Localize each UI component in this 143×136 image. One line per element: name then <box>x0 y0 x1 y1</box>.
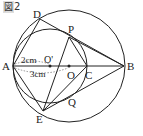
label-o: O <box>67 69 75 81</box>
figure-kanji: 図 <box>3 1 14 13</box>
label-o-prime: O' <box>44 54 53 65</box>
measure-2cm: 2cm <box>21 55 37 65</box>
label-e: E <box>36 113 43 125</box>
segment-ec <box>43 66 87 111</box>
diagram-canvas: A B C D E P Q O O' 2cm 3cm <box>0 0 143 136</box>
figure-label: 図2 <box>3 1 20 13</box>
segment-pb <box>69 37 124 66</box>
label-q: Q <box>68 96 76 108</box>
label-c: C <box>85 69 92 81</box>
label-a: A <box>2 60 10 72</box>
geometry-figure: 図2 A B C D E P Q O O' 2cm 3 <box>0 0 143 136</box>
point-o-dot <box>68 65 71 68</box>
segment-eb <box>43 66 124 111</box>
figure-number: 2 <box>14 1 20 12</box>
label-p: P <box>68 23 74 35</box>
label-d: D <box>33 8 41 20</box>
label-b: B <box>127 60 134 72</box>
measure-3cm: 3cm <box>30 69 46 79</box>
